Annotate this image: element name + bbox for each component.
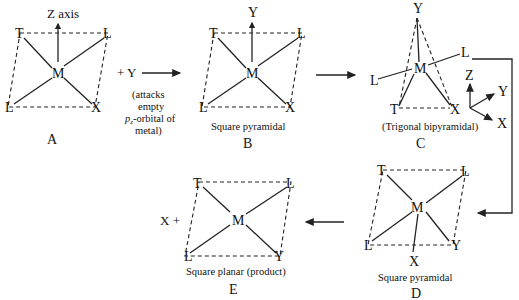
geometry-caption: Square pyramidal [378, 272, 452, 283]
geometry-caption: Square planar (product) [186, 266, 286, 278]
reagent-attack: + Y (attacks empty pz-orbital of metal) [117, 65, 180, 137]
structure-d: T L L Y X M Square pyramidal D [364, 163, 470, 300]
metal-center: M [246, 66, 259, 81]
structure-e: T L L Y M X + Square planar (product) E [160, 176, 295, 297]
x-axis-arrow-icon [470, 108, 492, 120]
ligand-l: L [297, 26, 306, 41]
ligand-y: Y [413, 1, 423, 16]
svg-text:metal): metal) [135, 125, 162, 137]
ligand-l: L [364, 238, 373, 253]
ligand-l: L [103, 26, 112, 41]
metal-center: M [52, 66, 65, 81]
reaction-mechanism-diagram: Z axis T L L X M A + Y (attacks empty pz… [0, 0, 519, 300]
leaving-group: X + [160, 213, 180, 228]
geometry-caption: (Trigonal bipyramidal) [382, 121, 479, 133]
structure-letter: A [47, 132, 58, 147]
structure-letter: D [411, 286, 421, 300]
ligand-t: T [193, 176, 202, 191]
ligand-t: T [209, 26, 218, 41]
z-axis-label: Z axis [47, 6, 79, 21]
ligand-t: T [390, 102, 399, 117]
ligand-l: L [461, 45, 470, 60]
metal-center: M [232, 213, 245, 228]
ligand-x: X [285, 100, 295, 115]
ligand-x: X [409, 254, 419, 269]
structure-letter: B [243, 136, 252, 151]
structure-letter: E [229, 282, 238, 297]
ligand-t: T [377, 163, 386, 178]
metal-center: M [414, 61, 427, 76]
reagent-label: + Y [117, 65, 137, 80]
structure-c: Y L L T X M (Trigonal bipyramidal) C [370, 1, 479, 151]
svg-text:Z: Z [465, 68, 474, 83]
ligand-y: Y [248, 5, 258, 20]
ligand-y: Y [274, 249, 284, 264]
connector-arrow-icon [472, 59, 512, 213]
svg-text:(attacks: (attacks [132, 89, 165, 101]
ligand-l: L [370, 73, 379, 88]
structure-letter: C [416, 136, 425, 151]
y-axis-arrow-icon [470, 94, 494, 108]
ligand-x: X [450, 102, 460, 117]
ligand-l: L [199, 100, 208, 115]
metal-center: M [411, 200, 424, 215]
ligand-l: L [5, 100, 14, 115]
ligand-l: L [286, 176, 295, 191]
ligand-y: Y [451, 238, 461, 253]
ligand-l: L [461, 164, 470, 179]
structure-a: Z axis T L L X M A [5, 6, 112, 147]
structure-b: Y T L L X M Square pyramidal B [199, 5, 306, 151]
ligand-t: T [15, 26, 24, 41]
svg-text:empty: empty [138, 101, 165, 112]
ligand-x: X [91, 100, 101, 115]
ligand-l: L [184, 249, 193, 264]
geometry-caption: Square pyramidal [211, 121, 285, 132]
svg-text:X: X [497, 116, 507, 131]
svg-text:Y: Y [498, 84, 508, 99]
